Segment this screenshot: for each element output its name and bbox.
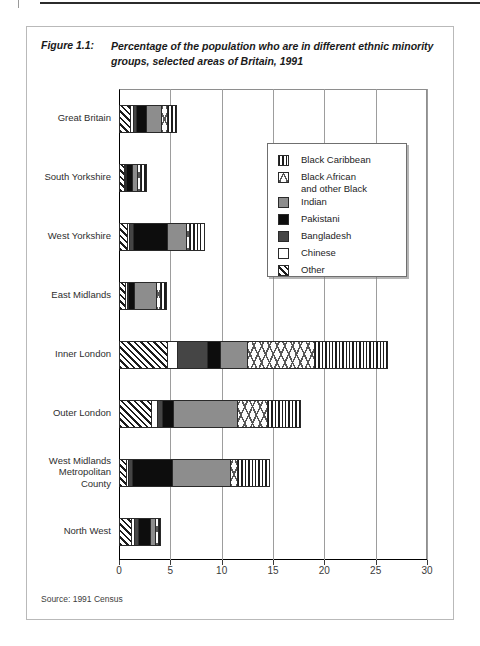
legend-swatch bbox=[278, 172, 289, 183]
stacked-bar bbox=[119, 400, 301, 428]
bar-row bbox=[119, 105, 427, 131]
legend-item: Pakistani bbox=[278, 213, 340, 225]
stacked-bar bbox=[119, 164, 147, 192]
gridline bbox=[427, 89, 428, 560]
legend-item: Indian bbox=[278, 196, 327, 208]
legend-item: Chinese bbox=[278, 247, 336, 259]
bar-segment bbox=[314, 342, 387, 368]
bar-segment bbox=[207, 342, 219, 368]
legend-swatch bbox=[278, 155, 289, 166]
bar-segment bbox=[237, 460, 269, 486]
source-note: Source: 1991 Census bbox=[41, 594, 123, 604]
bar-row bbox=[119, 459, 427, 485]
legend-swatch bbox=[278, 214, 289, 225]
legend-item: Bangladesh bbox=[278, 230, 351, 242]
x-axis-tick-label: 0 bbox=[116, 565, 122, 576]
bar-row bbox=[119, 400, 427, 426]
bar-segment bbox=[167, 106, 176, 132]
category-label: West Midlands Metropolitan County bbox=[27, 455, 111, 490]
stacked-bar bbox=[119, 105, 177, 133]
gridline bbox=[170, 89, 171, 560]
bar-segment bbox=[167, 342, 177, 368]
bar-segment bbox=[120, 224, 127, 250]
legend-item: Black African and other Black bbox=[278, 171, 367, 194]
category-label: Outer London bbox=[27, 407, 111, 419]
bar-segment bbox=[230, 460, 237, 486]
legend-label: Black Caribbean bbox=[301, 154, 371, 166]
stacked-bar bbox=[119, 282, 167, 310]
legend-swatch bbox=[278, 265, 289, 276]
stacked-bar bbox=[119, 518, 161, 546]
x-axis-tick-label: 20 bbox=[319, 565, 330, 576]
bar-segment bbox=[237, 401, 267, 427]
legend-swatch bbox=[278, 231, 289, 242]
legend-label: Chinese bbox=[301, 247, 336, 259]
legend-swatch bbox=[278, 197, 289, 208]
stacked-bar bbox=[119, 341, 388, 369]
bar-row bbox=[119, 282, 427, 308]
category-label: West Yorkshire bbox=[27, 230, 111, 242]
x-axis-tick-label: 25 bbox=[370, 565, 381, 576]
bar-segment bbox=[120, 519, 131, 545]
x-axis-tick-label: 30 bbox=[421, 565, 432, 576]
bar-segment bbox=[172, 460, 229, 486]
chart-legend: Black CaribbeanBlack African and other B… bbox=[267, 143, 407, 277]
legend-label: Bangladesh bbox=[301, 230, 351, 242]
category-label: North West bbox=[27, 525, 111, 537]
bar-segment bbox=[132, 460, 172, 486]
bar-segment bbox=[247, 342, 314, 368]
bar-segment bbox=[220, 342, 248, 368]
gridline bbox=[222, 89, 223, 560]
legend-label: Other bbox=[301, 264, 325, 276]
legend-label: Pakistani bbox=[301, 213, 340, 225]
bar-segment bbox=[267, 401, 300, 427]
bar-segment bbox=[160, 283, 166, 309]
bar-row bbox=[119, 341, 427, 367]
legend-label: Indian bbox=[301, 196, 327, 208]
legend-item: Other bbox=[278, 264, 325, 276]
bar-segment bbox=[136, 106, 145, 132]
bar-segment bbox=[162, 401, 173, 427]
figure-container: Figure 1.1: Percentage of the population… bbox=[26, 26, 454, 620]
x-axis-tick-label: 10 bbox=[216, 565, 227, 576]
bar-segment bbox=[138, 519, 149, 545]
bar-segment bbox=[167, 224, 185, 250]
bar-segment bbox=[140, 165, 145, 191]
category-label: Inner London bbox=[27, 348, 111, 360]
x-axis-tick-label: 15 bbox=[267, 565, 278, 576]
bar-segment bbox=[146, 106, 161, 132]
bar-segment bbox=[173, 401, 237, 427]
figure-number: Figure 1.1: bbox=[41, 39, 94, 51]
figure-title: Percentage of the population who are in … bbox=[111, 39, 436, 68]
page-corner-tick bbox=[18, 0, 19, 8]
legend-item: Black Caribbean bbox=[278, 154, 371, 166]
category-label: South Yorkshire bbox=[27, 171, 111, 183]
bar-row bbox=[119, 518, 427, 544]
page-top-rule bbox=[40, 2, 480, 4]
bar-segment bbox=[158, 519, 160, 545]
legend-label: Black African and other Black bbox=[301, 171, 367, 194]
bar-segment bbox=[120, 401, 151, 427]
bar-segment bbox=[133, 224, 167, 250]
category-label: Great Britain bbox=[27, 112, 111, 124]
stacked-bar bbox=[119, 459, 270, 487]
stacked-bar bbox=[119, 223, 205, 251]
category-label: East Midlands bbox=[27, 289, 111, 301]
bar-segment bbox=[120, 342, 167, 368]
bar-segment bbox=[177, 342, 207, 368]
bar-segment bbox=[134, 283, 156, 309]
x-axis-tick-label: 5 bbox=[168, 565, 174, 576]
bar-segment bbox=[189, 224, 204, 250]
legend-swatch bbox=[278, 248, 289, 259]
bar-segment bbox=[120, 106, 130, 132]
category-axis-labels: Great BritainSouth YorkshireWest Yorkshi… bbox=[27, 89, 111, 560]
